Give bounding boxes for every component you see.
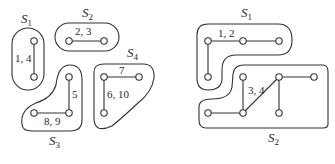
right-panel: 1, 2 S1 3, 4 S2 <box>197 5 328 147</box>
edge-label-s4-vertical: 6, 10 <box>107 88 130 100</box>
right-edge-label-s2: 3, 4 <box>248 84 265 96</box>
edge-label-s1: 1, 4 <box>15 52 32 64</box>
right-set-s2-hull <box>199 65 328 128</box>
edge-label-s4-horizontal: 7 <box>119 64 125 76</box>
right-set-label-s1: S1 <box>241 5 252 22</box>
set-label-s1: S1 <box>21 11 32 28</box>
set-label-s4: S4 <box>127 45 139 62</box>
edge-label-s3-vertical: 5 <box>72 88 78 100</box>
spanning-forest-diagram: 1, 4 S1 2, 3 S2 5 8, 9 S3 7 6, 10 S4 <box>0 0 335 164</box>
set-label-s3: S3 <box>49 133 61 150</box>
edge-label-s2: 2, 3 <box>75 25 92 37</box>
right-edge-label-s1: 1, 2 <box>218 27 235 39</box>
edge-label-s3-horizontal: 8, 9 <box>44 115 61 127</box>
left-panel: 1, 4 S1 2, 3 S2 5 8, 9 S3 7 6, 10 S4 <box>12 5 154 150</box>
right-set-label-s2: S2 <box>268 130 279 147</box>
set-label-s2: S2 <box>82 5 93 22</box>
